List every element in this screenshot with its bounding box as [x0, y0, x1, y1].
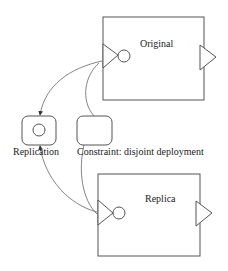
diagram-canvas — [0, 0, 228, 271]
replica-component[interactable] — [98, 174, 212, 256]
replica-provided-interface-icon — [113, 207, 125, 219]
constraint-node[interactable] — [77, 116, 112, 145]
edge-constraint-to-original — [86, 63, 99, 116]
constraint-label: Constraint: disjoint deployment — [77, 146, 204, 157]
replication-circle-icon — [33, 124, 45, 136]
replica-label: Replica — [145, 193, 176, 204]
original-out-port-icon — [200, 45, 216, 70]
replication-label: Replication — [13, 146, 59, 157]
edge-original-to-replication — [40, 61, 102, 115]
original-component[interactable] — [103, 17, 216, 100]
original-label: Original — [140, 38, 173, 49]
original-provided-interface-icon — [118, 50, 130, 62]
replica-out-port-icon — [196, 201, 212, 226]
replication-node[interactable] — [22, 116, 56, 145]
